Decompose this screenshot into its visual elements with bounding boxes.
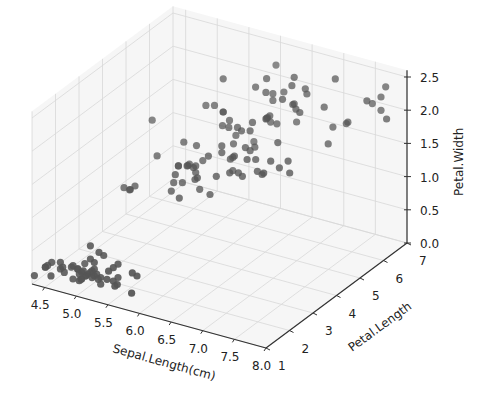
- data-point: [296, 109, 303, 116]
- data-point: [172, 171, 179, 178]
- y-tick: [290, 331, 294, 333]
- data-point: [262, 89, 269, 96]
- data-point: [202, 102, 209, 109]
- data-point: [57, 259, 64, 266]
- data-point: [103, 276, 110, 283]
- data-point: [31, 272, 38, 279]
- data-point: [321, 104, 328, 111]
- data-point: [325, 140, 332, 147]
- data-point: [232, 132, 239, 139]
- x-tick-label: 7.0: [189, 342, 208, 356]
- y-tick-label: 3: [325, 324, 333, 338]
- data-point: [47, 272, 54, 279]
- data-point: [273, 120, 280, 127]
- data-point: [180, 139, 187, 146]
- z-tick-label: 1.0: [420, 171, 439, 185]
- data-point: [285, 158, 292, 165]
- data-point: [190, 164, 197, 171]
- x-tick: [74, 296, 76, 299]
- x-tick-label: 5.5: [94, 316, 113, 330]
- data-point: [272, 62, 279, 69]
- x-tick-label: 7.5: [220, 350, 239, 364]
- y-tick: [313, 313, 317, 315]
- y-tick: [360, 278, 364, 280]
- y-tick-label: 6: [396, 272, 404, 286]
- data-point: [105, 268, 112, 275]
- x-tick-label: 6.0: [126, 324, 145, 338]
- data-point: [252, 156, 259, 163]
- data-point: [128, 290, 135, 297]
- data-point: [254, 168, 261, 175]
- data-point: [193, 142, 200, 149]
- data-point: [363, 97, 370, 104]
- data-point: [263, 75, 270, 82]
- data-point: [382, 83, 389, 90]
- data-point: [226, 169, 233, 176]
- x-tick: [232, 339, 234, 342]
- data-point: [239, 173, 246, 180]
- data-point: [242, 144, 249, 151]
- data-point: [95, 276, 102, 283]
- data-point: [69, 275, 76, 282]
- data-point: [199, 157, 206, 164]
- z-axis-label: Petal.Width: [452, 128, 466, 196]
- data-point: [129, 269, 136, 276]
- data-point: [61, 269, 68, 276]
- data-point: [249, 119, 256, 126]
- data-point: [332, 75, 339, 82]
- data-point: [238, 127, 245, 134]
- data-point: [48, 259, 55, 266]
- data-point: [218, 149, 225, 156]
- data-point: [286, 169, 293, 176]
- data-point: [274, 139, 281, 146]
- data-point: [226, 117, 233, 124]
- data-point: [219, 122, 226, 129]
- data-point: [225, 124, 232, 131]
- x-tick-label: 5.0: [62, 307, 81, 321]
- data-point: [280, 88, 287, 95]
- data-point: [276, 164, 283, 171]
- data-point: [42, 264, 49, 271]
- data-point: [91, 259, 98, 266]
- data-point: [170, 179, 177, 186]
- data-point: [69, 262, 76, 269]
- z-tick-label: 0.0: [420, 237, 439, 251]
- z-tick-label: 0.5: [420, 204, 439, 218]
- data-point: [126, 186, 133, 193]
- data-point: [87, 242, 94, 249]
- data-point: [289, 101, 296, 108]
- y-tick-label: 2: [302, 342, 310, 356]
- y-tick: [337, 296, 341, 298]
- data-point: [293, 118, 300, 125]
- data-point: [80, 267, 87, 274]
- data-point: [168, 188, 175, 195]
- data-point: [111, 283, 118, 290]
- data-point: [247, 127, 254, 134]
- y-tick: [384, 261, 388, 263]
- data-point: [269, 97, 276, 104]
- data-point: [81, 260, 88, 267]
- data-point: [344, 119, 351, 126]
- data-point: [176, 195, 183, 202]
- data-point: [184, 162, 191, 169]
- y-tick-label: 4: [349, 307, 357, 321]
- scatter-3d-chart: 4.55.05.56.06.57.07.58.012345670.00.51.0…: [0, 0, 491, 396]
- data-point: [220, 75, 227, 82]
- data-point: [211, 102, 218, 109]
- data-point: [88, 274, 95, 281]
- y-tick: [266, 348, 270, 350]
- y-tick-label: 7: [419, 254, 427, 268]
- z-tick-label: 2.0: [420, 104, 439, 118]
- data-point: [206, 191, 213, 198]
- data-point: [279, 96, 286, 103]
- x-tick: [169, 322, 171, 325]
- data-point: [95, 249, 102, 256]
- x-tick: [138, 313, 140, 316]
- data-point: [269, 90, 276, 97]
- data-point: [231, 152, 238, 159]
- data-point: [383, 115, 390, 122]
- data-point: [196, 186, 203, 193]
- data-point: [149, 117, 156, 124]
- data-point: [264, 114, 271, 121]
- data-point: [154, 152, 161, 159]
